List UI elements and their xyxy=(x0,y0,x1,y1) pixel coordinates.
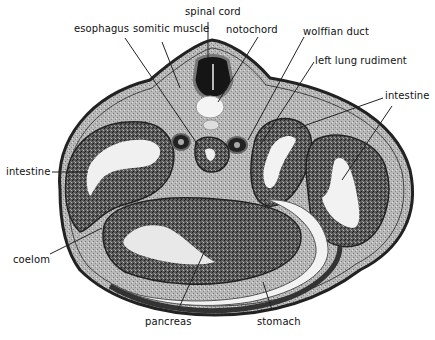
micrograph-figure: spinal cord esophagus somitic muscle not… xyxy=(0,0,435,340)
label-stomach: stomach xyxy=(257,316,301,328)
label-coelom: coelom xyxy=(13,254,50,266)
label-notochord: notochord xyxy=(226,24,278,36)
tissue-section-illustration xyxy=(0,0,435,340)
label-intestine-left: intestine xyxy=(6,166,51,178)
label-left-lung-rudiment: left lung rudiment xyxy=(315,55,407,67)
label-intestine-right: intestine xyxy=(385,90,430,102)
label-spinal-cord: spinal cord xyxy=(185,6,241,18)
label-esophagus: esophagus xyxy=(74,23,129,35)
cropped-caption-text xyxy=(268,330,433,334)
label-wolffian-duct: wolffian duct xyxy=(303,26,369,38)
label-pancreas: pancreas xyxy=(145,316,192,328)
label-somitic-muscle: somitic muscle xyxy=(133,23,209,35)
